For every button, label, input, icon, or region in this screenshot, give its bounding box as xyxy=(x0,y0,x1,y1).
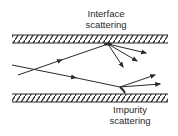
incident-ray-to-impurity xyxy=(12,65,120,87)
impurity-point xyxy=(120,87,125,93)
interface-label-line2: scattering xyxy=(76,19,136,30)
incident-ray-to-interface xyxy=(18,44,108,75)
impurity-scattering-label: Impurity scattering xyxy=(100,104,160,126)
interface-label-line1: Interface xyxy=(76,8,136,19)
top-wall xyxy=(12,35,168,43)
impurity-scattered-rays xyxy=(120,75,160,87)
interface-scattering-label: Interface scattering xyxy=(76,8,136,30)
interface-scattered-rays xyxy=(108,44,146,67)
scattering-diagram: Interface scattering Impurity scattering xyxy=(0,0,178,136)
impurity-label-line2: scattering xyxy=(100,115,160,126)
impurity-label-line1: Impurity xyxy=(100,104,160,115)
bottom-wall xyxy=(12,94,168,102)
